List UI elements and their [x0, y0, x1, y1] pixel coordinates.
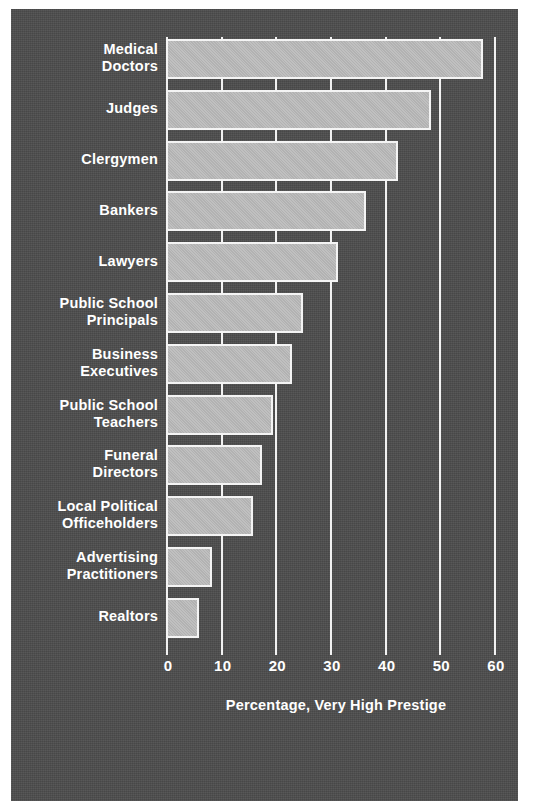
category-label-line: Funeral — [16, 447, 158, 464]
bar-row[interactable] — [166, 395, 273, 435]
bar[interactable] — [166, 141, 398, 181]
x-axis-tick-10 — [221, 641, 223, 655]
x-axis-tick-label: 0 — [148, 657, 188, 674]
x-axis-tick-label: 50 — [421, 657, 461, 674]
x-axis-tick-0 — [166, 641, 168, 655]
bar-row[interactable] — [166, 344, 292, 384]
category-label: Public SchoolTeachers — [16, 397, 158, 431]
category-label-line: Lawyers — [16, 253, 158, 270]
bar-row[interactable] — [166, 293, 303, 333]
bar[interactable] — [166, 395, 273, 435]
gridline-60 — [494, 37, 496, 655]
bar-row[interactable] — [166, 191, 366, 231]
category-label-line: Doctors — [16, 58, 158, 75]
x-axis-tick-50 — [439, 641, 441, 655]
gridline-50 — [439, 37, 441, 655]
x-axis-tick-label: 40 — [367, 657, 407, 674]
category-label-line: Clergymen — [16, 151, 158, 168]
category-label: Local PoliticalOfficeholders — [16, 498, 158, 532]
bar[interactable] — [166, 242, 338, 282]
category-label-line: Medical — [16, 41, 158, 58]
category-label-line: Business — [16, 346, 158, 363]
bar[interactable] — [166, 598, 199, 638]
x-axis-tick-20 — [275, 641, 277, 655]
x-axis-tick-label: 10 — [203, 657, 243, 674]
category-label-line: Public School — [16, 295, 158, 312]
bar-row[interactable] — [166, 598, 199, 638]
x-axis-tick-label: 30 — [312, 657, 352, 674]
bar[interactable] — [166, 496, 253, 536]
chart-panel: 0102030405060MedicalDoctorsJudgesClergym… — [11, 9, 518, 801]
category-label-line: Public School — [16, 397, 158, 414]
bar[interactable] — [166, 39, 483, 79]
category-label: Judges — [16, 100, 158, 117]
category-label: FuneralDirectors — [16, 447, 158, 481]
category-label-line: Executives — [16, 363, 158, 380]
bar-row[interactable] — [166, 141, 398, 181]
category-label-line: Practitioners — [16, 566, 158, 583]
category-label-line: Directors — [16, 464, 158, 481]
bar[interactable] — [166, 445, 262, 485]
category-label: Realtors — [16, 608, 158, 625]
bar-row[interactable] — [166, 445, 262, 485]
bar[interactable] — [166, 344, 292, 384]
category-label-line: Bankers — [16, 202, 158, 219]
x-axis-tick-30 — [330, 641, 332, 655]
category-label: Lawyers — [16, 253, 158, 270]
category-label: Bankers — [16, 202, 158, 219]
bar-row[interactable] — [166, 496, 253, 536]
category-label-line: Realtors — [16, 608, 158, 625]
x-axis-tick-40 — [385, 641, 387, 655]
bar-row[interactable] — [166, 39, 483, 79]
x-axis-tick-label: 60 — [476, 657, 516, 674]
bar[interactable] — [166, 90, 431, 130]
plot-area: 0102030405060MedicalDoctorsJudgesClergym… — [155, 9, 518, 801]
category-label-line: Principals — [16, 312, 158, 329]
bar-row[interactable] — [166, 90, 431, 130]
category-label-line: Local Political — [16, 498, 158, 515]
bar[interactable] — [166, 293, 303, 333]
category-label-line: Officeholders — [16, 515, 158, 532]
category-label-line: Judges — [16, 100, 158, 117]
x-axis-tick-label: 20 — [257, 657, 297, 674]
category-label: Public SchoolPrincipals — [16, 295, 158, 329]
bar-row[interactable] — [166, 547, 212, 587]
bar-row[interactable] — [166, 242, 338, 282]
category-label: MedicalDoctors — [16, 41, 158, 75]
category-label: AdvertisingPractitioners — [16, 549, 158, 583]
x-axis-tick-60 — [494, 641, 496, 655]
category-label: Clergymen — [16, 151, 158, 168]
category-label-line: Teachers — [16, 414, 158, 431]
bar[interactable] — [166, 547, 212, 587]
bar[interactable] — [166, 191, 366, 231]
prestige-bar-chart-figure: 0102030405060MedicalDoctorsJudgesClergym… — [0, 0, 533, 810]
category-label: BusinessExecutives — [16, 346, 158, 380]
x-axis-title: Percentage, Very High Prestige — [166, 697, 506, 713]
category-label-line: Advertising — [16, 549, 158, 566]
